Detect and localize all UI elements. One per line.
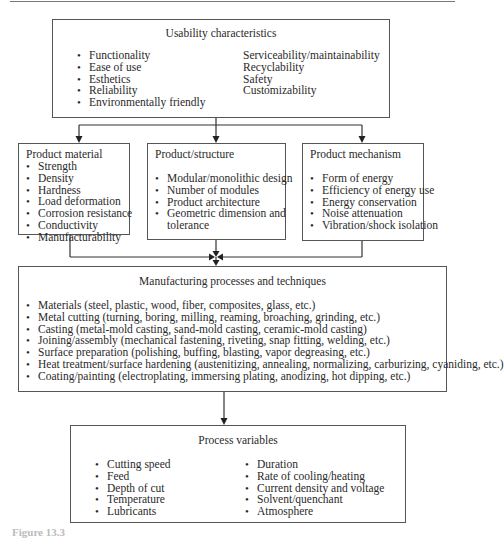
list-item: Density	[24, 173, 132, 185]
list-item: Efficiency of energy use	[308, 185, 438, 197]
process-variables-title: Process variables	[71, 434, 405, 446]
product-structure-box: Product/structure Modular/monolithic des…	[147, 143, 286, 240]
product-mechanism-title: Product mechanism	[310, 148, 401, 160]
list-item: Manufacturability	[24, 232, 132, 244]
product-material-title: Product material	[26, 148, 102, 160]
manufacturing-list: Materials (steel, plastic, wood, fiber, …	[24, 300, 504, 383]
usability-left-list: Functionality Ease of use Esthetics Reli…	[75, 50, 206, 109]
list-item: Conductivity	[24, 220, 132, 232]
list-item: Ease of use	[75, 62, 206, 74]
product-mechanism-list: Form of energy Efficiency of energy use …	[308, 173, 438, 232]
list-item: Coating/painting (electroplating, immers…	[24, 371, 504, 383]
list-item: Heat treatment/surface hardening (austen…	[24, 359, 504, 371]
list-item: Number of modules	[153, 185, 293, 197]
list-item: Customizability	[243, 85, 380, 97]
product-material-list: Strength Density Hardness Load deformati…	[24, 161, 132, 244]
list-item: Feed	[93, 471, 171, 483]
list-item: Lubricants	[93, 506, 171, 518]
process-variables-box: Process variables Cutting speed Feed Dep…	[70, 425, 406, 523]
product-mechanism-box: Product mechanism Form of energy Efficie…	[302, 143, 424, 241]
figure-caption: Figure 13.3	[12, 526, 65, 538]
process-variables-left-list: Cutting speed Feed Depth of cut Temperat…	[93, 459, 171, 518]
product-structure-list: Modular/monolithic design Number of modu…	[153, 173, 293, 232]
manufacturing-processes-box: Manufacturing processes and techniques M…	[18, 266, 447, 392]
list-item: Environmentally friendly	[75, 97, 206, 109]
usability-title: Usability characteristics	[53, 27, 389, 39]
product-structure-title: Product/structure	[155, 148, 234, 160]
manufacturing-title: Manufacturing processes and techniques	[19, 275, 446, 287]
list-item: Cutting speed	[93, 459, 171, 471]
process-variables-right-list: Duration Rate of cooling/heating Current…	[243, 459, 384, 518]
list-item: Metal cutting (turning, boring, milling,…	[24, 312, 504, 324]
list-item: Rate of cooling/heating	[243, 471, 384, 483]
product-material-box: Product material Strength Density Hardne…	[18, 143, 130, 235]
list-item-continuation: tolerance	[153, 220, 293, 232]
usability-characteristics-box: Usability characteristics Functionality …	[52, 19, 390, 118]
list-item: Atmosphere	[243, 506, 384, 518]
list-item: Recyclability	[243, 62, 380, 74]
list-item: Vibration/shock isolation	[308, 220, 438, 232]
usability-right-list: Serviceability/maintainability Recyclabi…	[243, 50, 380, 97]
